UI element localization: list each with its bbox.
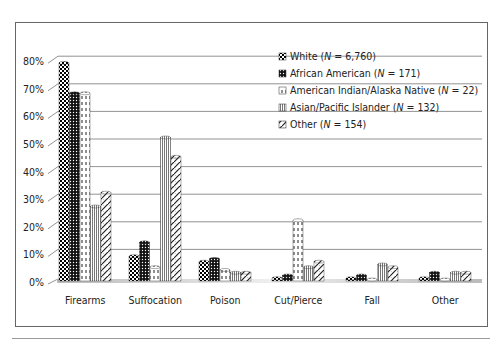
bar <box>171 155 181 281</box>
legend-item: Other (N = 154) <box>279 118 366 130</box>
gridline <box>48 167 482 174</box>
legend-item: White (N = 6,760) <box>279 50 376 62</box>
legend-swatch-icon <box>279 87 286 94</box>
x-category-label: Fall <box>364 294 380 306</box>
svg-text:Asian/Pacific Islander (N = 13: Asian/Pacific Islander (N = 132) <box>290 101 439 113</box>
bar <box>451 271 461 281</box>
bar <box>293 219 303 281</box>
bar <box>419 277 429 281</box>
bar <box>241 271 251 281</box>
bar <box>388 266 398 281</box>
legend-item: Asian/Pacific Islander (N = 132) <box>279 101 439 113</box>
x-category-label: Firearms <box>65 294 105 306</box>
y-tick-label: 40% <box>23 166 44 178</box>
svg-text:White (N = 6,760): White (N = 6,760) <box>290 50 376 62</box>
bar <box>430 271 440 281</box>
x-axis-categories: FirearmsSuffocationPoisonCut/PierceFallO… <box>65 294 459 306</box>
svg-text:Other (N = 154): Other (N = 154) <box>290 118 366 130</box>
bar <box>283 274 293 281</box>
x-category-label: Cut/Pierce <box>274 294 322 306</box>
bar <box>461 271 471 281</box>
bar <box>59 61 69 281</box>
bar <box>440 278 450 281</box>
bar <box>210 257 220 281</box>
legend-swatch-icon <box>279 104 286 111</box>
legend-item: American Indian/Alaska Native (N = 22) <box>279 84 478 96</box>
gridline <box>48 194 482 201</box>
bar <box>70 92 80 281</box>
svg-text:American Indian/Alaska Native: American Indian/Alaska Native (N = 22) <box>290 84 478 96</box>
y-tick-label: 30% <box>23 193 44 205</box>
y-tick-label: 80% <box>23 55 44 67</box>
bar <box>140 241 150 281</box>
floor <box>57 279 482 283</box>
y-tick-label: 20% <box>23 221 44 233</box>
gridline <box>48 56 482 63</box>
y-axis-ticks: 0%10%20%30%40%50%60%70%80% <box>23 55 44 288</box>
bar <box>80 92 90 281</box>
legend-swatch-icon <box>279 70 286 77</box>
bar <box>272 277 282 281</box>
bar <box>129 255 139 281</box>
bar <box>346 277 356 281</box>
gridline <box>48 222 482 229</box>
bar <box>304 266 314 281</box>
bar <box>161 136 171 281</box>
legend: White (N = 6,760)African American (N = 1… <box>279 50 478 130</box>
y-tick-label: 10% <box>23 248 44 260</box>
bar <box>367 278 377 281</box>
bar-chart: 0%10%20%30%40%50%60%70%80% FirearmsSuffo… <box>0 0 503 346</box>
bar <box>101 191 111 281</box>
y-tick-label: 50% <box>23 138 44 150</box>
x-category-label: Poison <box>210 294 240 306</box>
gridline <box>48 139 482 146</box>
bar <box>91 205 101 281</box>
gridline <box>48 249 482 256</box>
bar <box>150 266 160 281</box>
bar <box>314 260 324 281</box>
bar <box>199 260 209 281</box>
x-category-label: Other <box>432 294 459 306</box>
legend-swatch-icon <box>279 53 286 60</box>
bar <box>220 268 230 281</box>
legend-item: African American (N = 171) <box>279 67 420 79</box>
legend-swatch-icon <box>279 121 286 128</box>
svg-text:African American (N = 171): African American (N = 171) <box>290 67 420 79</box>
bar <box>231 271 241 281</box>
bar <box>378 263 388 281</box>
y-tick-label: 0% <box>29 276 44 288</box>
y-tick-label: 60% <box>23 110 44 122</box>
bar <box>357 274 367 281</box>
y-tick-label: 70% <box>23 83 44 95</box>
x-category-label: Suffocation <box>129 294 182 306</box>
